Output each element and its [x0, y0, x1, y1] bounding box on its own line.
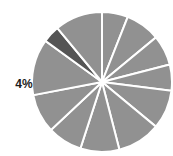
pie-chart: 4%	[0, 0, 173, 156]
pie-labels-group: 4%	[15, 77, 33, 91]
pie-slices-group	[32, 12, 172, 152]
pie-chart-svg: 4%	[0, 0, 173, 156]
pie-slice-data-label: 4%	[15, 77, 33, 91]
